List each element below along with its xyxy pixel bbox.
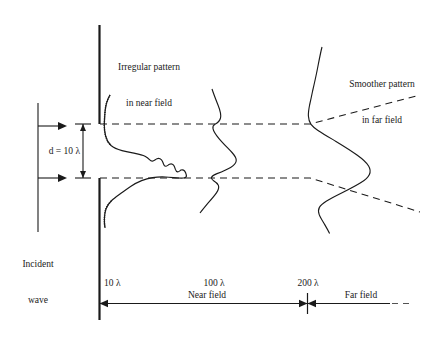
incident-wave-arrow-bottom [38,174,67,182]
smoother-pattern-label-line2: in far field [336,114,428,126]
aperture-dimension-label: d = 10 λ [28,145,80,157]
irregular-pattern-label: Irregular pattern in near field [99,37,199,133]
smoother-pattern-label-line1: Smoother pattern [336,78,428,90]
figure-root: Incident wave d = 10 λ Irregular pattern… [0,0,429,343]
incident-wave-label: Incident wave [10,234,66,330]
incident-wave-label-line1: Incident [10,258,66,270]
incident-wave-label-line2: wave [10,294,66,306]
axis-label-200-lambda: 200 λ [280,277,336,289]
region-label-far-field: Far field [330,289,392,301]
pattern-curve-10-lambda-ripple-bottom [104,201,111,228]
irregular-pattern-label-line2: in near field [99,97,199,109]
smoother-pattern-label: Smoother pattern in far field [336,54,428,150]
axis-label-100-lambda: 100 λ [186,277,242,289]
irregular-pattern-label-line1: Irregular pattern [99,61,199,73]
divergence-line-lower [100,178,420,212]
pattern-curve-100-lambda [200,89,236,213]
region-label-near-field: Near field [170,289,244,301]
axis-label-10-lambda: 10 λ [104,277,120,289]
incident-wave-arrow-top [38,122,67,130]
